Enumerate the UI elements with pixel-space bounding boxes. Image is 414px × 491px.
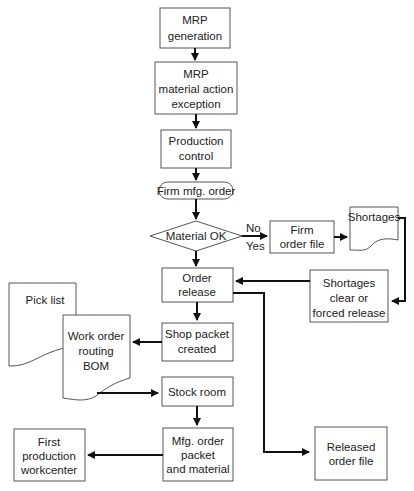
order-release-box: Order release xyxy=(162,268,233,302)
svg-text:order file: order file xyxy=(280,238,325,250)
svg-text:order file: order file xyxy=(329,455,374,467)
svg-text:forced release: forced release xyxy=(313,307,386,319)
material-ok-decision: Material OK xyxy=(150,221,242,251)
svg-text:routing: routing xyxy=(78,345,113,357)
firm-mfg-order-terminator: Firm mfg. order xyxy=(157,182,236,199)
svg-text:generation: generation xyxy=(168,30,222,42)
svg-text:Firm: Firm xyxy=(291,224,314,236)
no-label: No xyxy=(246,222,261,234)
svg-text:production: production xyxy=(22,450,76,462)
svg-text:control: control xyxy=(179,150,214,162)
shortages-clear-box: Shortages clear or forced release xyxy=(310,270,388,322)
flowchart: MRP generation MRP material action excep… xyxy=(0,0,414,491)
svg-text:clear or: clear or xyxy=(330,292,369,304)
released-order-file-box: Released order file xyxy=(315,427,387,480)
svg-text:Shortages: Shortages xyxy=(348,211,401,223)
svg-text:Production: Production xyxy=(169,135,224,147)
svg-text:MRP: MRP xyxy=(183,68,209,80)
svg-text:workcenter: workcenter xyxy=(20,464,77,476)
firm-order-file-box: Firm order file xyxy=(270,221,334,253)
svg-text:Released: Released xyxy=(327,441,376,453)
first-production-box: First production workcenter xyxy=(14,429,85,481)
production-control-box: Production control xyxy=(161,130,231,168)
yes-label: Yes xyxy=(246,240,265,252)
svg-text:packet: packet xyxy=(181,449,216,461)
shop-packet-box: Shop packet created xyxy=(162,323,233,361)
svg-text:First: First xyxy=(38,436,61,448)
stock-room-box: Stock room xyxy=(162,377,233,406)
svg-text:Shortages: Shortages xyxy=(323,277,376,289)
svg-text:release: release xyxy=(178,286,216,298)
svg-text:Stock room: Stock room xyxy=(168,386,226,398)
svg-text:Order: Order xyxy=(182,272,212,284)
mrp-exception-box: MRP material action exception xyxy=(155,62,237,114)
svg-text:exception: exception xyxy=(171,98,220,110)
svg-text:Shop packet: Shop packet xyxy=(165,328,230,340)
svg-text:Mfg. order: Mfg. order xyxy=(172,435,225,447)
svg-text:Work order: Work order xyxy=(68,330,125,342)
svg-text:Firm mfg. order: Firm mfg. order xyxy=(157,185,236,197)
svg-text:BOM: BOM xyxy=(83,360,109,372)
mrp-generation-box: MRP generation xyxy=(160,8,230,48)
work-order-document: Work order routing BOM xyxy=(63,315,130,400)
mfg-order-packet-box: Mfg. order packet and material xyxy=(163,428,233,481)
shortages-document: Shortages xyxy=(348,207,401,250)
svg-text:MRP: MRP xyxy=(182,14,208,26)
svg-text:and material: and material xyxy=(166,463,229,475)
svg-text:material action: material action xyxy=(159,83,234,95)
svg-text:Material OK: Material OK xyxy=(166,230,227,242)
svg-text:Pick list: Pick list xyxy=(26,294,66,306)
svg-text:created: created xyxy=(178,343,216,355)
